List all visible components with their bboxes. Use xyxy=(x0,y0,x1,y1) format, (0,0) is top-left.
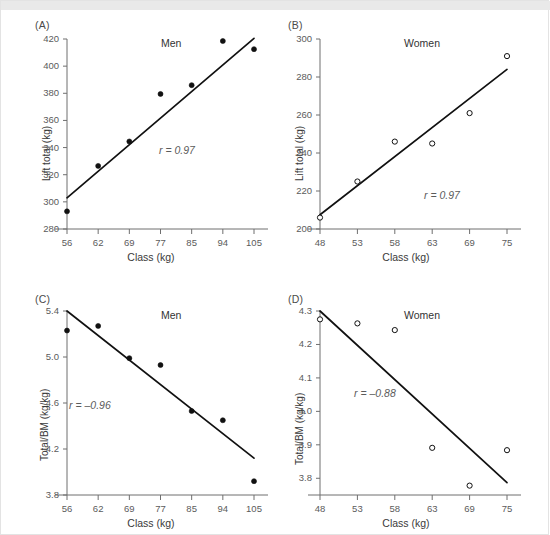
data-point xyxy=(504,448,509,453)
data-point xyxy=(355,321,360,326)
data-point xyxy=(127,356,132,361)
panel-c-y-tick-label: 4.2 xyxy=(25,443,59,454)
panel-d-y-tick-label: 4.3 xyxy=(278,305,312,316)
data-point xyxy=(189,409,194,414)
panel-c-x-tick-label: 94 xyxy=(208,503,238,514)
panel-a-x-tick-label: 85 xyxy=(177,237,207,248)
panel-d-y-tick-label: 4.0 xyxy=(278,405,312,416)
panel-a-y-tick-label: 320 xyxy=(25,169,59,180)
panel-b-x-tick-label: 58 xyxy=(380,237,410,248)
panel-d-y-tick-label: 3.8 xyxy=(278,472,312,483)
panel-d-x-tick-label: 48 xyxy=(305,503,335,514)
panel-b-y-tick-label: 300 xyxy=(278,33,312,44)
panel-c-x-tick-label: 105 xyxy=(239,503,269,514)
panel-b: (B) Women r = 0.97 Lift total (kg) Class… xyxy=(276,1,550,269)
panel-a-x-tick-label: 77 xyxy=(146,237,176,248)
panel-c-y-tick-label: 3.8 xyxy=(25,489,59,500)
data-point xyxy=(252,47,257,52)
panel-d-y-tick-label: 3.9 xyxy=(278,439,312,450)
panel-c-x-tick-label: 69 xyxy=(114,503,144,514)
panel-a-x-tick-label: 105 xyxy=(239,237,269,248)
panel-d-y-tick-label: 4.1 xyxy=(278,372,312,383)
panel-a-y-tick-label: 280 xyxy=(25,223,59,234)
panel-d-x-tick-label: 75 xyxy=(492,503,522,514)
panel-b-plot xyxy=(276,1,550,269)
panel-a-y-tick-label: 300 xyxy=(25,196,59,207)
panel-a-x-tick-label: 56 xyxy=(52,237,82,248)
panel-b-x-tick-label: 69 xyxy=(455,237,485,248)
data-point xyxy=(158,363,163,368)
panel-a-x-tick-label: 69 xyxy=(114,237,144,248)
panel-a-y-tick-label: 420 xyxy=(25,33,59,44)
data-point xyxy=(96,323,101,328)
data-point xyxy=(65,328,70,333)
data-point xyxy=(220,418,225,423)
panel-d-y-tick-label: 4.2 xyxy=(278,338,312,349)
panel-a-y-tick-label: 380 xyxy=(25,87,59,98)
panel-a: (A) Men r = 0.97 Lift total (kg) Class (… xyxy=(1,1,276,269)
panel-c-x-tick-label: 62 xyxy=(83,503,113,514)
panel-b-y-tick-label: 200 xyxy=(278,223,312,234)
panel-b-y-tick-label: 240 xyxy=(278,147,312,158)
panel-d-x-tick-label: 58 xyxy=(380,503,410,514)
panel-c-y-tick-label: 4.6 xyxy=(25,397,59,408)
data-point xyxy=(430,445,435,450)
panel-a-y-tick-label: 360 xyxy=(25,114,59,125)
panel-c-y-tick-label: 5.0 xyxy=(25,351,59,362)
data-point xyxy=(317,317,322,322)
panel-d-x-tick-label: 69 xyxy=(455,503,485,514)
data-point xyxy=(467,111,472,116)
data-point xyxy=(65,209,70,214)
data-point xyxy=(158,91,163,96)
data-point xyxy=(355,179,360,184)
data-point xyxy=(252,479,257,484)
panel-b-x-tick-label: 63 xyxy=(417,237,447,248)
panel-d-x-tick-label: 63 xyxy=(417,503,447,514)
panel-c-x-tick-label: 56 xyxy=(52,503,82,514)
panel-a-x-tick-label: 62 xyxy=(83,237,113,248)
panel-c-y-tick-label: 5.4 xyxy=(25,305,59,316)
panel-a-y-tick-label: 340 xyxy=(25,142,59,153)
panel-c-x-tick-label: 77 xyxy=(146,503,176,514)
data-point xyxy=(189,83,194,88)
panel-b-x-tick-label: 53 xyxy=(342,237,372,248)
data-point xyxy=(317,215,322,220)
data-point xyxy=(127,139,132,144)
panel-c: (C) Men r = –0.96 Total/BM (kg/kg) Class… xyxy=(1,269,276,535)
panel-b-y-tick-label: 260 xyxy=(278,109,312,120)
data-point xyxy=(504,54,509,59)
panel-c-x-tick-label: 85 xyxy=(177,503,207,514)
data-point xyxy=(392,327,397,332)
data-point xyxy=(392,139,397,144)
panel-b-y-tick-label: 220 xyxy=(278,185,312,196)
data-point xyxy=(96,163,101,168)
panel-b-x-tick-label: 48 xyxy=(305,237,335,248)
panel-b-x-tick-label: 75 xyxy=(492,237,522,248)
panel-d-plot xyxy=(276,269,550,535)
panel-a-y-tick-label: 400 xyxy=(25,60,59,71)
data-point xyxy=(430,141,435,146)
data-point xyxy=(220,39,225,44)
panel-b-y-tick-label: 280 xyxy=(278,71,312,82)
panel-d: (D) Women r = –0.88 Total/BM (kg/kg) Cla… xyxy=(276,269,550,535)
data-point xyxy=(467,483,472,488)
panel-d-x-tick-label: 53 xyxy=(342,503,372,514)
panel-a-x-tick-label: 94 xyxy=(208,237,238,248)
